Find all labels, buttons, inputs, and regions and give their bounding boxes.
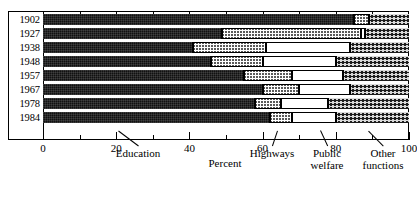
bar-segment xyxy=(43,42,193,53)
bar-segment xyxy=(365,28,409,39)
bar-segment xyxy=(343,70,409,81)
y-label-1967: 1967 xyxy=(9,85,40,95)
y-label-1927: 1927 xyxy=(9,29,40,39)
x-axis-ticks xyxy=(43,131,409,140)
bar-segment xyxy=(211,56,262,67)
axis-tick-major xyxy=(409,132,410,140)
bar-segment xyxy=(270,112,292,123)
y-label-1984: 1984 xyxy=(9,113,40,123)
bar-segment xyxy=(244,70,292,81)
bar-segment xyxy=(336,112,409,123)
bar-segment xyxy=(263,56,336,67)
bar-segment xyxy=(43,112,270,123)
x-tick-label: 80 xyxy=(330,142,341,154)
y-label-1902: 1902 xyxy=(9,15,40,25)
bar-segment xyxy=(292,112,336,123)
axis-tick-major xyxy=(116,132,117,140)
bar-segment xyxy=(369,14,409,25)
bar-segment xyxy=(292,70,343,81)
bar-segment xyxy=(43,14,354,25)
bar-row xyxy=(43,42,409,53)
axis-tick-minor xyxy=(299,135,300,140)
bar-row xyxy=(43,14,409,25)
bar-segment xyxy=(266,42,350,53)
bar-segment xyxy=(43,28,222,39)
bar-segment xyxy=(350,42,409,53)
x-axis-title-wrap: Percent xyxy=(0,157,417,169)
axis-tick-major xyxy=(263,132,264,140)
x-tick-label: 40 xyxy=(184,142,195,154)
bar-segment xyxy=(354,14,369,25)
x-tick-label: 60 xyxy=(257,142,268,154)
bar-row xyxy=(43,98,409,109)
axis-tick-major xyxy=(189,132,190,140)
bar-row xyxy=(43,70,409,81)
bar-segment xyxy=(43,84,263,95)
bar-row xyxy=(43,112,409,123)
bar-segment xyxy=(299,84,350,95)
y-axis-category-labels: 1902 1927 1938 1948 1957 1967 1978 1984 xyxy=(9,12,43,139)
bar-segment xyxy=(281,98,329,109)
axis-tick-minor xyxy=(80,135,81,140)
bar-segment xyxy=(43,70,244,81)
axis-tick-major xyxy=(336,132,337,140)
y-label-1938: 1938 xyxy=(9,43,40,53)
bar-segment xyxy=(263,84,300,95)
bar-segment xyxy=(328,98,409,109)
bar-segment xyxy=(43,56,211,67)
y-label-1957: 1957 xyxy=(9,71,40,81)
bar-segment xyxy=(222,28,361,39)
y-label-1948: 1948 xyxy=(9,57,40,67)
bar-segment xyxy=(43,98,255,109)
bar-row xyxy=(43,56,409,67)
bar-row xyxy=(43,28,409,39)
bar-segment xyxy=(350,84,409,95)
stacked-bar-chart: 1902 1927 1938 1948 1957 1967 1978 1984 … xyxy=(0,0,417,203)
axis-tick-minor xyxy=(226,135,227,140)
y-label-1978: 1978 xyxy=(9,99,40,109)
x-axis-title: Percent xyxy=(209,157,242,169)
bar-row xyxy=(43,84,409,95)
plot-area xyxy=(43,12,409,127)
x-tick-label: 100 xyxy=(401,142,417,154)
axis-tick-major xyxy=(43,132,44,140)
x-axis-tick-labels: 020406080100 xyxy=(0,142,417,156)
bar-segment xyxy=(336,56,409,67)
axis-tick-minor xyxy=(153,135,154,140)
bar-segment xyxy=(193,42,266,53)
x-tick-label: 20 xyxy=(111,142,122,154)
x-tick-label: 0 xyxy=(40,142,46,154)
bar-segment xyxy=(255,98,281,109)
